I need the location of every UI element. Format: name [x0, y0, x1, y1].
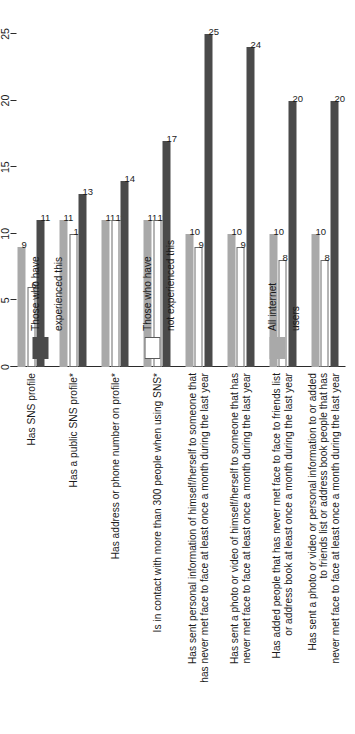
category-label-sent-photo-or-video: Has sent a photo or video of himself/her…	[229, 373, 252, 733]
bar-value-label: 9	[240, 240, 245, 249]
bar-not-experienced	[111, 220, 119, 367]
axis-tick-label: 0	[0, 364, 10, 370]
category-label-added-people-to-friends-list: Has added people that has never met face…	[271, 373, 294, 733]
category-label-has-address-or-phone-on-profile: Has address or phone number on profile*	[109, 373, 120, 733]
bar-experienced	[204, 34, 212, 367]
category-label-has-public-sns-profile: Has a public SNS profile*	[67, 373, 78, 733]
bar-value-label: 9	[21, 240, 26, 249]
bar-not-experienced	[236, 247, 244, 367]
bar-experienced	[36, 220, 44, 367]
category-label-text: Has SNS profile	[25, 373, 36, 445]
axis-tick-label: 15	[0, 161, 10, 173]
bar-experienced	[78, 194, 86, 367]
bar-value-label: 20	[292, 93, 303, 102]
bar-not-experienced	[194, 247, 202, 367]
category-label-line-3: never met face to face at least once a m…	[330, 373, 341, 733]
axis-tick-label: 10	[0, 228, 10, 240]
axis-tick-label: 5	[0, 297, 10, 303]
bar-all-internet-users	[59, 220, 67, 367]
category-label-line-2: never met face to face at least once a m…	[240, 373, 251, 733]
category-label-sent-photo-or-added-combined: Has sent a photo or video or personal in…	[307, 373, 341, 733]
bar-value-label: 9	[198, 240, 203, 249]
category-label-line-1: Has sent a photo or video or personal in…	[307, 373, 318, 733]
plot-area: 9611111013111114111117109251092410820108…	[10, 34, 345, 367]
bar-value-label: 17	[166, 133, 177, 142]
bar-value-label: 10	[315, 226, 326, 235]
bar-value-label: 10	[189, 226, 200, 235]
bar-value-label: 14	[124, 173, 135, 182]
bar-not-experienced	[153, 220, 161, 367]
bar-not-experienced	[278, 260, 286, 367]
bar-experienced	[330, 101, 338, 367]
bar-all-internet-users	[101, 220, 109, 367]
category-label-in-contact-300-people: Is in contact with more than 300 people …	[151, 373, 162, 733]
bar-not-experienced	[69, 234, 77, 367]
bar-chart-figure: 0510152025 Has SNS profile Has a public …	[0, 0, 355, 734]
category-label-text: Has a public SNS profile*	[67, 373, 78, 487]
bar-all-internet-users	[143, 220, 151, 367]
category-label-line-1: Has sent personal information of himself…	[187, 373, 198, 733]
bar-experienced	[288, 101, 296, 367]
category-label-line-1: Has sent a photo or video of himself/her…	[229, 373, 240, 733]
bar-value-label: 10	[273, 226, 284, 235]
category-label-text: Is in contact with more than 300 people …	[151, 373, 162, 632]
bar-experienced	[120, 181, 128, 367]
bar-value-label: 13	[82, 186, 93, 195]
bar-value-label: 25	[208, 27, 219, 36]
bar-not-experienced	[27, 287, 35, 367]
axis-tick-label: 20	[0, 95, 10, 107]
bar-value-label: 10	[231, 226, 242, 235]
bar-all-internet-users	[269, 234, 277, 367]
bar-all-internet-users	[185, 234, 193, 367]
bar-not-experienced	[320, 260, 328, 367]
category-label-sent-personal-information: Has sent personal information of himself…	[187, 373, 210, 733]
bar-experienced	[162, 141, 170, 367]
bar-value-label: 8	[282, 253, 287, 262]
axis-tick-label: 25	[0, 28, 10, 40]
bar-value-label: 8	[324, 253, 329, 262]
category-label-line-2: has never met face to face at least once…	[198, 373, 209, 733]
bar-all-internet-users	[311, 234, 319, 367]
bar-value-label: 11	[40, 213, 50, 222]
category-label-line-2: to friends list or address book people t…	[318, 373, 329, 733]
bar-value-label: 20	[334, 93, 345, 102]
category-label-text: Has address or phone number on profile*	[109, 373, 120, 559]
bar-experienced	[246, 47, 254, 367]
bar-value-label: 24	[250, 40, 261, 49]
category-label-line-2: or address book at least once a month du…	[282, 373, 293, 733]
bar-value-label: 6	[31, 280, 36, 289]
bar-all-internet-users	[17, 247, 25, 367]
bar-all-internet-users	[227, 234, 235, 367]
category-labels: Has SNS profile Has a public SNS profile…	[10, 369, 345, 734]
category-label-line-1: Has added people that has never met face…	[271, 373, 282, 733]
category-label-has-sns-profile: Has SNS profile	[25, 373, 36, 733]
bar-value-label: 11	[63, 213, 73, 222]
